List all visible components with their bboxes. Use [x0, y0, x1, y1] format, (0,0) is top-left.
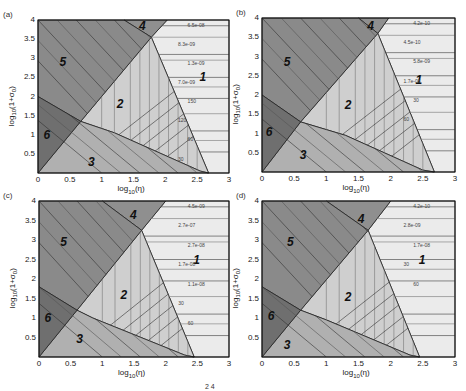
- region-label-5: 5: [284, 55, 291, 69]
- region-label-4: 4: [130, 208, 137, 222]
- y-tick-label: 3: [20, 235, 36, 244]
- y-tick-label: 1.5: [243, 294, 259, 303]
- x-tick-label: 2: [157, 175, 173, 184]
- y-tick-label: 4: [19, 15, 35, 24]
- y-tick-label: 0.5: [19, 149, 35, 158]
- x-tick-label: 2: [158, 359, 174, 368]
- y-tick-label: 1.5: [20, 294, 36, 303]
- contour-label: 5.8e-09: [413, 58, 430, 64]
- contour-label: 30: [178, 156, 184, 162]
- region-label-3: 3: [300, 148, 307, 162]
- x-tick-label: 3: [447, 174, 463, 183]
- x-tick-label: 2.5: [189, 175, 205, 184]
- y-tick-label: 0.5: [243, 148, 259, 157]
- y-tick-label: 3.5: [243, 32, 259, 41]
- region-label-4: 4: [367, 19, 374, 33]
- contour-label: 60: [404, 116, 410, 122]
- x-axis-label: log10(η): [343, 368, 370, 379]
- x-tick-label: 1: [318, 359, 334, 368]
- y-tick-label: 3.5: [19, 34, 35, 43]
- y-tick-label: 3: [243, 235, 259, 244]
- contour-label: 120: [178, 117, 186, 123]
- y-tick-label: 0.5: [20, 333, 36, 342]
- region-label-2: 2: [121, 288, 128, 302]
- region-label-5: 5: [60, 235, 67, 249]
- region-label-2: 2: [117, 97, 124, 111]
- x-tick-label: 1: [94, 359, 110, 368]
- x-tick-label: 0.5: [62, 175, 78, 184]
- y-tick-label: 2.5: [243, 71, 259, 80]
- y-axis-label: log10(1+σ0): [231, 248, 242, 308]
- x-tick-label: 0: [31, 359, 47, 368]
- x-tick-label: 0: [254, 174, 270, 183]
- x-tick-label: 3: [447, 359, 463, 368]
- contour-label: 6.5e-08: [188, 22, 205, 28]
- x-tick-label: 2: [383, 359, 399, 368]
- x-tick-label: 1.5: [126, 359, 142, 368]
- panel-c: (c)00.511.522.530.511.522.533.54log10(η)…: [0, 188, 233, 383]
- x-tick-label: 2.5: [415, 359, 431, 368]
- y-tick-label: 1: [243, 313, 259, 322]
- region-label-5: 5: [59, 55, 66, 69]
- y-tick-label: 2: [20, 274, 36, 283]
- panel-a: (a)00.511.522.530.511.522.533.54log10(η)…: [0, 0, 233, 195]
- contour-label: 1.7e-08: [178, 261, 195, 267]
- y-tick-label: 1.5: [19, 111, 35, 120]
- y-tick-label: 2: [19, 92, 35, 101]
- panel-b: (b)00.511.522.530.511.522.533.54log10(η)…: [233, 0, 466, 195]
- y-axis-label: log10(1+σ0): [7, 66, 18, 126]
- x-tick-label: 1.5: [126, 175, 142, 184]
- y-tick-label: 4: [243, 196, 259, 205]
- y-tick-label: 3.5: [243, 216, 259, 225]
- contour-label: 1.7e-08: [413, 242, 430, 248]
- y-axis-label: log10(1+σ0): [231, 64, 242, 124]
- region-label-6: 6: [266, 125, 273, 139]
- region-label-1: 1: [200, 70, 207, 84]
- contour-label: 1.3e-09: [188, 60, 205, 66]
- y-tick-label: 1: [19, 130, 35, 139]
- region-label-5: 5: [287, 235, 294, 249]
- region-label-2: 2: [345, 290, 352, 304]
- region-label-3: 3: [284, 338, 291, 352]
- contour-label: 2.8e-09: [404, 222, 421, 228]
- contour-label: 1.1e-08: [188, 281, 205, 287]
- x-tick-label: 0.5: [286, 359, 302, 368]
- y-tick-label: 1: [20, 313, 36, 322]
- y-tick-label: 4: [20, 196, 36, 205]
- region-label-6: 6: [268, 309, 275, 323]
- x-tick-label: 0.5: [63, 359, 79, 368]
- x-tick-label: 2.5: [415, 174, 431, 183]
- contour-label: 4.2e-10: [413, 203, 430, 209]
- contour-label: 30: [413, 97, 419, 103]
- region-label-4: 4: [358, 212, 365, 226]
- x-tick-label: 1.5: [351, 359, 367, 368]
- y-axis-label: log10(1+σ0): [8, 248, 19, 308]
- contour-label: 30: [404, 261, 410, 267]
- contour-label: 60: [188, 136, 194, 142]
- y-tick-label: 2: [243, 274, 259, 283]
- contour-label: 7.0e-09: [178, 79, 195, 85]
- caption-fragment: 2 4: [205, 383, 215, 390]
- contour-label: 60: [413, 281, 419, 287]
- plot-area: [233, 188, 466, 383]
- contour-label: 30: [178, 300, 184, 306]
- region-label-4: 4: [139, 19, 146, 33]
- x-tick-label: 1.5: [351, 174, 367, 183]
- contour-label: 4.5e-09: [188, 203, 205, 209]
- x-tick-label: 0: [30, 175, 46, 184]
- y-tick-label: 4: [243, 13, 259, 22]
- y-tick-label: 1: [243, 129, 259, 138]
- x-tick-label: 1: [94, 175, 110, 184]
- region-label-6: 6: [45, 311, 52, 325]
- x-tick-label: 1: [318, 174, 334, 183]
- y-tick-label: 2.5: [243, 255, 259, 264]
- region-label-3: 3: [76, 332, 83, 346]
- x-tick-label: 2: [383, 174, 399, 183]
- contour-label: 4.2e-10: [413, 20, 430, 26]
- x-tick-label: 2.5: [189, 359, 205, 368]
- y-tick-label: 3.5: [20, 216, 36, 225]
- region-label-3: 3: [88, 155, 95, 169]
- contour-label: 8.3e-09: [178, 41, 195, 47]
- contour-label: 60: [188, 320, 194, 326]
- contour-label: 150: [188, 98, 196, 104]
